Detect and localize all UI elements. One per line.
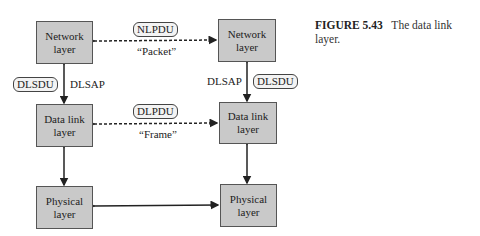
left-dlsdu-pill: DLSDU bbox=[13, 77, 58, 92]
right-data-link-layer-box: Data link layer bbox=[219, 102, 277, 144]
dlpdu-pill: DLPDU bbox=[133, 104, 178, 119]
left-data-link-layer-label: Data link layer bbox=[41, 113, 89, 139]
right-network-layer-box: Network layer bbox=[218, 19, 276, 62]
right-dlsdu-pill: DLSDU bbox=[253, 74, 298, 89]
left-physical-layer-label: Physical layer bbox=[41, 195, 89, 221]
figure-number: FIGURE 5.43 bbox=[315, 19, 383, 31]
packet-label: “Packet” bbox=[137, 45, 176, 58]
right-physical-layer-box: Physical layer bbox=[220, 184, 277, 227]
nlpdu-pill: NLPDU bbox=[133, 22, 178, 37]
left-dlsap-label: DLSAP bbox=[70, 78, 105, 91]
right-physical-layer-label: Physical layer bbox=[225, 193, 273, 219]
left-network-layer-box: Network layer bbox=[36, 21, 93, 64]
right-dlsap-label: DLSAP bbox=[207, 75, 242, 88]
left-physical-layer-box: Physical layer bbox=[36, 186, 93, 229]
right-data-link-layer-label: Data link layer bbox=[224, 110, 272, 136]
right-network-layer-label: Network layer bbox=[225, 28, 269, 54]
figure-caption: FIGURE 5.43 The data link layer. bbox=[315, 18, 475, 46]
left-data-link-layer-box: Data link layer bbox=[36, 104, 93, 147]
frame-label: “Frame” bbox=[139, 128, 177, 141]
left-network-layer-label: Network layer bbox=[43, 30, 87, 56]
